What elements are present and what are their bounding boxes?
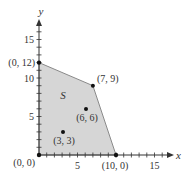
region-label-s: S bbox=[60, 89, 66, 101]
point-label-origin: (0, 0) bbox=[13, 157, 35, 169]
point-6-6 bbox=[84, 107, 88, 111]
y-axis-label: y bbox=[38, 5, 44, 17]
x-axis-arrow-icon bbox=[167, 152, 174, 158]
y-axis-arrow-icon bbox=[36, 19, 42, 26]
point-7-9 bbox=[91, 84, 95, 88]
point-3-3 bbox=[61, 130, 65, 134]
y-tick-label-5: 5 bbox=[29, 111, 34, 122]
point-10-0 bbox=[114, 153, 118, 157]
point-0-12 bbox=[37, 60, 41, 64]
x-tick-label-15: 15 bbox=[150, 160, 160, 171]
y-tick-label-10: 10 bbox=[24, 73, 34, 84]
point-label-10-0: (10, 0) bbox=[102, 160, 129, 172]
feasible-region-graph: 5 15 x 5 10 15 y S bbox=[0, 0, 182, 176]
point-label-3-3: (3, 3) bbox=[53, 135, 75, 147]
y-tick-label-15: 15 bbox=[24, 34, 34, 45]
point-label-7-9: (7, 9) bbox=[97, 73, 119, 85]
point-origin bbox=[37, 153, 41, 157]
x-tick-label-5: 5 bbox=[75, 160, 80, 171]
x-axis-label: x bbox=[175, 149, 181, 161]
point-label-6-6: (6, 6) bbox=[76, 112, 98, 124]
point-label-0-12: (0, 12) bbox=[8, 57, 35, 69]
